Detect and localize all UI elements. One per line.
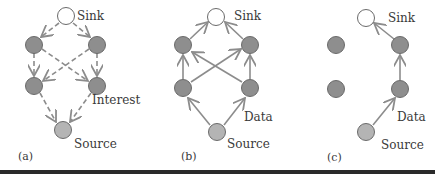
relay-node — [392, 37, 409, 54]
edge-ul-sink — [190, 22, 208, 39]
edge-lr-ul — [192, 52, 242, 82]
source-label: Source — [381, 138, 424, 152]
edge-source-ll — [188, 98, 210, 125]
panel-c: Sink Data Source (c) — [327, 10, 426, 165]
relay-node — [328, 81, 345, 98]
panel-caption: (b) — [181, 150, 197, 163]
relay-node — [175, 37, 192, 54]
edge-ur-sink — [225, 22, 243, 39]
edge-source-lr — [224, 98, 245, 125]
edge-lr-source — [70, 93, 91, 122]
relay-node — [26, 37, 43, 54]
edge-label: Data — [397, 110, 426, 124]
panel-b: Sink Data Source (b) — [175, 9, 273, 164]
source-node — [358, 124, 375, 141]
relay-node — [175, 80, 192, 97]
relay-node — [242, 37, 259, 54]
panel-a: Sink Interest Source (a) — [18, 8, 140, 164]
source-node — [55, 122, 72, 139]
source-label: Source — [227, 137, 270, 151]
edge-sink-ur — [73, 23, 90, 37]
relay-node — [328, 37, 345, 54]
edge-ll-source — [40, 93, 56, 122]
source-node — [209, 124, 226, 141]
relay-node — [392, 81, 409, 98]
sink-node — [358, 10, 375, 27]
relay-node — [89, 78, 106, 95]
relay-node — [89, 37, 106, 54]
edge-label: Interest — [92, 93, 140, 107]
sink-label: Sink — [77, 9, 105, 23]
sink-label: Sink — [234, 9, 262, 23]
sink-label: Sink — [388, 11, 416, 25]
edge-source-lr — [373, 98, 395, 125]
panel-caption: (c) — [327, 151, 342, 164]
sink-node — [58, 8, 75, 25]
diffusion-diagram: Sink Interest Source (a) Sink Data Sourc… — [0, 0, 435, 175]
bottom-rule — [0, 170, 435, 174]
edge-ur-sink — [374, 23, 394, 39]
source-label: Source — [74, 137, 117, 151]
relay-node — [26, 78, 43, 95]
panel-caption: (a) — [18, 150, 33, 163]
edge-sink-ul — [41, 23, 59, 37]
edge-label: Data — [244, 110, 273, 124]
sink-node — [208, 9, 225, 26]
relay-node — [242, 80, 259, 97]
